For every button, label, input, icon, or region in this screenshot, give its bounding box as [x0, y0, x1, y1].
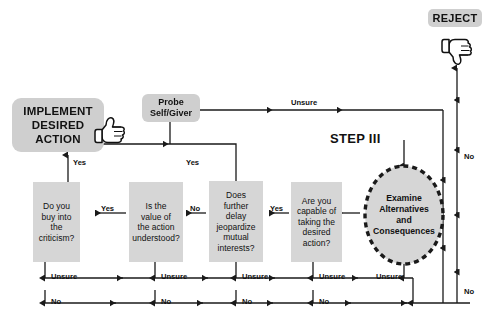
examine-line-2: Alternatives [373, 204, 435, 215]
d2-line-1: Is the [132, 201, 179, 212]
edge-label-no-4: No [319, 297, 329, 306]
decision-buy-into-criticism: Do you buy into the criticism? [33, 182, 80, 262]
d1-line-2: buy into [39, 212, 74, 223]
edge-label-yes-box4-to-box3: Yes [270, 204, 283, 213]
edge-label-unsure-1: Unsure [51, 272, 77, 281]
edge-label-no-2: No [161, 297, 171, 306]
edge-label-no-right-upper: No [464, 152, 474, 161]
edge-label-no-1: No [51, 297, 61, 306]
implement-line-3: ACTION [23, 132, 93, 146]
decision-capable-of-taking-action: Are you capable of taking the desired ac… [291, 182, 342, 262]
terminal-reject: REJECT [428, 9, 482, 27]
terminal-probe-self-giver: Probe Self/Giver [142, 94, 200, 122]
d3-line-5: mutual [216, 232, 255, 243]
edge-label-unsure-5: Unsure [376, 272, 402, 281]
edge-label-unsure-4: Unsure [319, 272, 345, 281]
d3-line-1: Does [216, 190, 255, 201]
d1-line-4: criticism? [39, 233, 74, 244]
thumbs-down-icon [440, 26, 474, 66]
d4-line-2: capable of [297, 206, 336, 217]
probe-line-2: Self/Giver [150, 108, 192, 119]
edge-label-unsure-top: Unsure [291, 98, 317, 107]
reject-label: REJECT [432, 12, 477, 25]
edge-label-unsure-2: Unsure [161, 272, 187, 281]
d3-line-6: interests? [216, 243, 255, 254]
d3-line-2: further [216, 201, 255, 212]
step-three-label: STEP III [330, 131, 381, 146]
d3-line-3: delay [216, 211, 255, 222]
edge-label-yes-box3-up: Yes [186, 158, 199, 167]
decision-value-understood: Is the value of the action understood? [129, 182, 183, 262]
implement-line-1: IMPLEMENT [23, 104, 93, 118]
d1-line-1: Do you [39, 201, 74, 212]
probe-line-1: Probe [150, 97, 192, 108]
decision-delay-jeopardize: Does further delay jeopardize mutual int… [209, 181, 263, 262]
start-node-examine-alternatives: Examine Alternatives and Consequences [366, 190, 442, 240]
d4-line-4: desired [297, 227, 336, 238]
d2-line-2: value of [132, 212, 179, 223]
examine-line-3: and [373, 215, 435, 226]
d4-line-3: taking the [297, 217, 336, 228]
implement-line-2: DESIRED [23, 118, 93, 132]
d4-line-1: Are you [297, 196, 336, 207]
edge-label-unsure-3: Unsure [242, 272, 268, 281]
edge-label-yes-box2-to-box1: Yes [101, 204, 114, 213]
d1-line-3: the [39, 222, 74, 233]
thumbs-up-icon [93, 116, 127, 154]
examine-line-1: Examine [373, 193, 435, 204]
edge-label-no-box3-to-box2: No [190, 204, 200, 213]
d2-line-3: the action [132, 222, 179, 233]
d2-line-4: understood? [132, 233, 179, 244]
terminal-implement-desired-action: IMPLEMENT DESIRED ACTION [12, 98, 104, 152]
d3-line-4: jeopardize [216, 222, 255, 233]
flowchart-canvas: IMPLEMENT DESIRED ACTION Probe Self/Give… [0, 0, 498, 324]
d4-line-5: action? [297, 238, 336, 249]
edge-label-yes-box1-up: Yes [73, 158, 86, 167]
edge-label-no-right-lower: No [464, 287, 474, 296]
edge-label-no-3: No [242, 297, 252, 306]
examine-line-4: Consequences [373, 226, 435, 237]
